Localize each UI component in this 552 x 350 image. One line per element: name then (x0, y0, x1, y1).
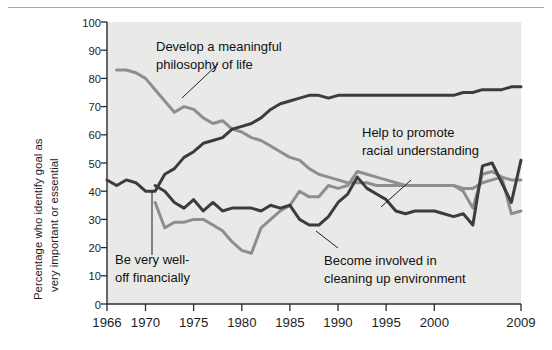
y-tick-label-30: 30 (89, 214, 101, 226)
x-tick-label-1975: 1975 (179, 315, 208, 330)
x-tick-label-1985: 1985 (275, 315, 304, 330)
y-axis-title-line1: Percentage who identify goal as (32, 138, 44, 300)
x-tick-label-1966: 1966 (92, 315, 121, 330)
y-axis-tick-labels: 100 90 80 70 60 50 40 30 20 10 0 (82, 17, 101, 311)
y-tick-label-60: 60 (89, 129, 101, 141)
x-tick-label-1970: 1970 (131, 315, 160, 330)
y-tick-label-70: 70 (89, 101, 101, 113)
y-tick-label-90: 90 (89, 45, 101, 57)
y-tick-label-40: 40 (89, 186, 101, 198)
chart-figure: Percentage who identify goal as very imp… (0, 0, 552, 350)
annot-financial-line1: Be very well- (115, 252, 189, 267)
y-tick-label-50: 50 (89, 158, 101, 170)
line-chart-plot: Percentage who identify goal as very imp… (0, 0, 552, 350)
annot-racial-line1: Help to promote (362, 125, 455, 140)
y-tick-label-0: 0 (95, 299, 101, 311)
y-axis-ticks (101, 22, 107, 304)
x-tick-label-2000: 2000 (420, 315, 449, 330)
annot-philosophy-line1: Develop a meaningful (156, 39, 282, 54)
x-axis-ticks (107, 304, 521, 311)
y-tick-label-100: 100 (82, 17, 101, 29)
annot-philosophy-line2: philosophy of life (156, 57, 253, 72)
y-axis-title: Percentage who identify goal as very imp… (32, 138, 60, 300)
y-tick-label-20: 20 (89, 242, 101, 254)
x-tick-label-2009: 2009 (506, 315, 535, 330)
y-tick-label-80: 80 (89, 73, 101, 85)
annot-environment-line1: Become involved in (324, 253, 437, 268)
x-axis-tick-labels: 1966 1970 1975 1980 1985 1990 1995 2000 … (92, 315, 535, 330)
x-tick-label-1980: 1980 (227, 315, 256, 330)
annot-financial-line2: off financially (115, 270, 190, 285)
x-tick-label-1990: 1990 (323, 315, 352, 330)
y-tick-label-10: 10 (89, 270, 101, 282)
annot-environment-line2: cleaning up environment (324, 271, 466, 286)
x-tick-label-1995: 1995 (371, 315, 400, 330)
y-axis-title-line2: very important or essential (48, 158, 60, 292)
annot-racial-line2: racial understanding (362, 143, 479, 158)
